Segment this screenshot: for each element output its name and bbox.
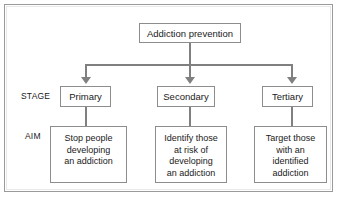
node-stage-secondary: Secondary	[157, 86, 215, 107]
node-aim-secondary-line: developing	[156, 156, 226, 168]
node-aim-primary-line: developing	[51, 145, 126, 157]
node-stage-primary: Primary	[60, 86, 111, 107]
node-aim-tertiary-line: Target those	[255, 133, 326, 145]
node-aim-primary-line: Stop people	[51, 133, 126, 145]
node-aim-secondary-line: Identify those	[156, 133, 226, 145]
node-aim-tertiary: Target those with an identified addictio…	[254, 126, 327, 183]
row-label-aim: AIM	[25, 131, 41, 141]
node-aim-primary-line: an addiction	[51, 156, 126, 168]
connector-stem-primary-aim	[85, 107, 87, 126]
node-aim-primary: Stop people developing an addiction	[50, 126, 127, 183]
row-label-stage: STAGE	[21, 91, 50, 101]
node-aim-tertiary-line: addiction	[255, 168, 326, 180]
diagram-figure: Addiction prevention STAGE AIM Primary S…	[0, 0, 341, 202]
connector-drop-tertiary	[291, 64, 293, 78]
arrowhead-primary-icon	[81, 77, 91, 84]
arrowhead-tertiary-icon	[287, 77, 297, 84]
node-aim-secondary-line: at risk of	[156, 145, 226, 157]
connector-stem-tertiary-aim	[291, 107, 293, 126]
figure-frame: Addiction prevention STAGE AIM Primary S…	[4, 4, 333, 192]
arrowhead-secondary-icon	[185, 77, 195, 84]
connector-drop-secondary	[189, 64, 191, 78]
node-root-addiction-prevention: Addiction prevention	[139, 23, 241, 43]
connector-root-trunk	[189, 43, 191, 66]
connector-drop-primary	[85, 64, 87, 78]
node-aim-secondary-line: an addiction	[156, 168, 226, 180]
node-aim-tertiary-line: identified	[255, 156, 326, 168]
connector-stem-secondary-aim	[189, 107, 191, 126]
node-aim-tertiary-line: with an	[255, 145, 326, 157]
node-aim-secondary: Identify those at risk of developing an …	[155, 126, 227, 183]
node-stage-tertiary: Tertiary	[262, 86, 313, 107]
